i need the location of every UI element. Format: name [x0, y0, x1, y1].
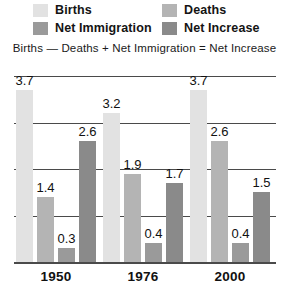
bar-2000-births [190, 90, 207, 262]
bar-value-2000-births: 3.7 [183, 73, 214, 88]
chart-legend: Births Deaths Net Immigration Net Increa… [0, 0, 289, 40]
legend-label-deaths: Deaths [184, 3, 226, 17]
bar-value-1950-births: 3.7 [9, 73, 40, 88]
births-swatch [33, 4, 48, 17]
bar-value-1950-net-increase: 2.6 [72, 124, 103, 139]
legend-item-net-immigration: Net Immigration [33, 21, 152, 35]
x-axis-baseline [14, 262, 276, 264]
bar-1976-births [103, 113, 120, 262]
bar-1950-net-increase [79, 141, 96, 262]
x-axis-label-2000: 2000 [182, 269, 278, 284]
legend-label-net-immigration: Net Immigration [55, 21, 152, 35]
x-axis-label-1950: 1950 [8, 269, 104, 284]
bar-1950-net-immigration [58, 248, 75, 262]
bar-value-1976-net-increase: 1.7 [159, 166, 190, 181]
chart-plot-area: 3.71.40.32.619503.21.90.41.719763.72.60.… [0, 62, 289, 291]
bar-value-1976-net-immigration: 0.4 [138, 226, 169, 241]
bar-1950-deaths [37, 197, 54, 262]
gridline-4 [14, 76, 276, 77]
bar-1950-births [16, 90, 33, 262]
legend-item-deaths: Deaths [162, 3, 226, 17]
gridline-3 [14, 123, 276, 124]
bar-1976-deaths [124, 174, 141, 262]
bar-value-1976-deaths: 1.9 [117, 157, 148, 172]
bar-value-2000-net-immigration: 0.4 [225, 226, 256, 241]
net-immigration-swatch [33, 22, 48, 35]
legend-label-net-increase: Net Increase [184, 21, 260, 35]
plot-inner: 3.71.40.32.619503.21.90.41.719763.72.60.… [14, 76, 276, 262]
legend-item-net-increase: Net Increase [162, 21, 260, 35]
x-axis-label-1976: 1976 [95, 269, 191, 284]
bar-2000-net-immigration [232, 243, 249, 262]
legend-item-births: Births [33, 3, 92, 17]
bar-value-2000-net-increase: 1.5 [246, 175, 277, 190]
deaths-swatch [162, 4, 177, 17]
bar-2000-net-increase [253, 192, 270, 262]
bar-2000-deaths [211, 141, 228, 262]
bar-value-1976-births: 3.2 [96, 96, 127, 111]
formula-caption: Births — Deaths + Net Immigration = Net … [0, 42, 289, 54]
bar-value-2000-deaths: 2.6 [204, 124, 235, 139]
bar-1976-net-immigration [145, 243, 162, 262]
chart-page: Births Deaths Net Immigration Net Increa… [0, 0, 289, 291]
legend-label-births: Births [55, 3, 92, 17]
net-increase-swatch [162, 22, 177, 35]
bar-value-1950-net-immigration: 0.3 [51, 231, 82, 246]
bar-value-1950-deaths: 1.4 [30, 180, 61, 195]
bar-1976-net-increase [166, 183, 183, 262]
